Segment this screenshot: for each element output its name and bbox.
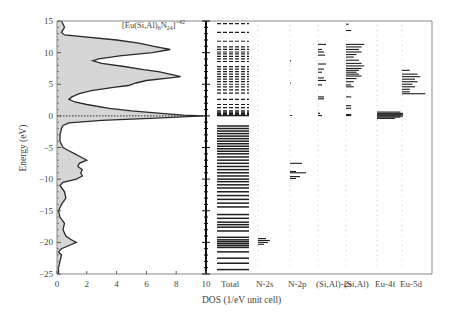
column-label: Eu-5d — [400, 279, 422, 289]
pdos-column--si-al-2s — [318, 25, 326, 268]
x-tick-label: 0 — [55, 279, 60, 289]
total-dos-panel — [57, 21, 206, 274]
x-tick-label: 2 — [85, 279, 90, 289]
annotation-formula: [Eu(Si,Al)6N24]−42 — [122, 19, 185, 31]
pdos-column-total — [217, 24, 249, 270]
column-label: Total — [221, 279, 240, 289]
pdos-column-eu-4f — [377, 25, 403, 268]
column-label: Eu-4f — [375, 279, 396, 289]
y-tick-label: −25 — [39, 269, 54, 279]
y-tick-label: 10 — [44, 48, 54, 58]
y-tick-label: −5 — [43, 143, 53, 153]
dos-area-fill — [57, 21, 203, 274]
x-tick-label: 6 — [144, 279, 149, 289]
pdos-column-n-2p — [290, 25, 306, 268]
x-tick-label: 8 — [174, 279, 179, 289]
projected-dos-panel: TotalN-2sN-2p(Si,Al)-2s(Si,Al)Eu-4fEu-5d — [217, 24, 425, 289]
pdos-column--si-al- — [346, 24, 364, 268]
y-tick-label: 5 — [49, 79, 54, 89]
pdos-column-eu-5d — [402, 25, 425, 268]
y-tick-label: −20 — [39, 237, 54, 247]
y-tick-label: 0 — [49, 111, 54, 121]
y-tick-label: 15 — [44, 16, 54, 26]
y-tick-label: −15 — [39, 206, 54, 216]
x-tick-label: 10 — [202, 279, 212, 289]
y-tick-label: −10 — [39, 174, 54, 184]
dos-chart: TotalN-2sN-2p(Si,Al)-2s(Si,Al)Eu-4fEu-5d… — [0, 0, 450, 324]
y-axis-title: Energy (eV) — [18, 124, 29, 171]
pdos-column-n-2s — [258, 25, 270, 268]
x-axis-title: DOS (1/eV unit cell) — [202, 295, 281, 306]
column-label: N-2s — [256, 279, 274, 289]
column-label: N-2p — [288, 279, 307, 289]
x-tick-label: 4 — [114, 279, 119, 289]
column-label: (Si,Al) — [344, 279, 369, 289]
